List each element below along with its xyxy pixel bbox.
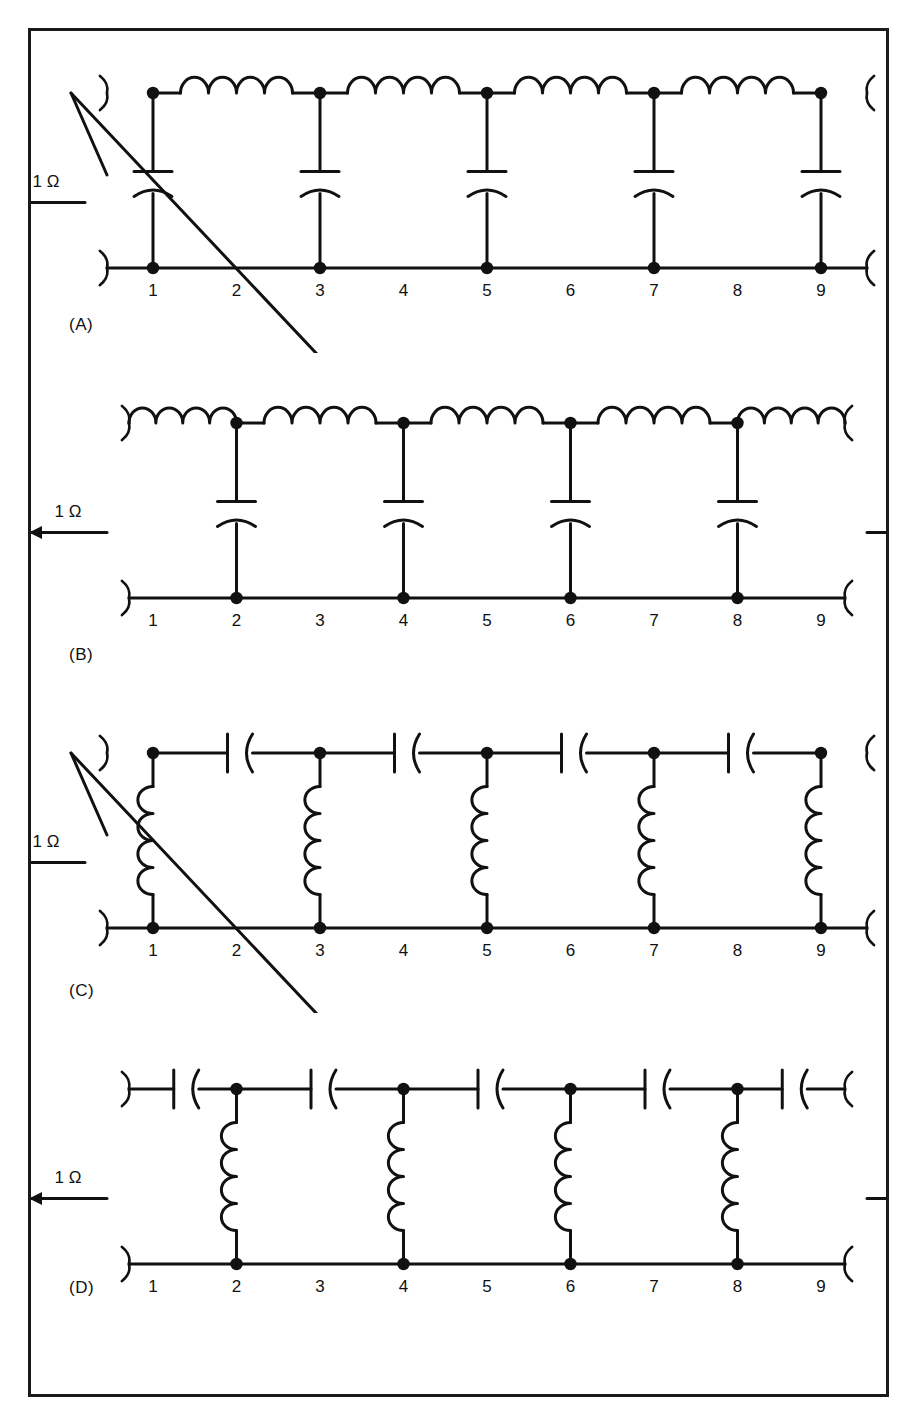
shunt-inductor: [388, 1123, 403, 1231]
node-number-label: 6: [566, 941, 575, 960]
junction-dot: [314, 87, 326, 99]
left-top-terminal: [122, 1072, 129, 1106]
node-number-label: 3: [315, 941, 324, 960]
junction-dot: [481, 922, 493, 934]
node-number-label: 9: [816, 281, 825, 300]
node-number-label: 7: [649, 611, 658, 630]
node-number-label: 1: [148, 1277, 157, 1296]
node-number-label: 2: [232, 941, 241, 960]
top-rail-segment: [71, 753, 821, 1013]
node-number-label: 7: [649, 281, 658, 300]
node-number-label: 2: [232, 281, 241, 300]
junction-dot: [314, 747, 326, 759]
series-inductor: [129, 408, 237, 423]
shunt-inductor: [138, 787, 153, 895]
shunt-inductor: [722, 1123, 737, 1231]
junction-dot: [731, 417, 743, 429]
junction-dot: [648, 747, 660, 759]
series-inductor: [431, 407, 543, 423]
junction-dot: [648, 922, 660, 934]
junction-dot: [564, 592, 576, 604]
circuit-c-svg: 1 Ω1 Ω123456789: [31, 713, 886, 1013]
series-inductor: [515, 77, 627, 93]
shunt-inductor: [555, 1123, 570, 1231]
left-bottom-terminal: [100, 911, 107, 945]
junction-dot: [397, 417, 409, 429]
series-inductor: [682, 77, 794, 93]
junction-dot: [815, 87, 827, 99]
circuit-diagram-c: 1 Ω1 Ω123456789 (C): [31, 713, 886, 1013]
junction-dot: [648, 87, 660, 99]
right-top-terminal: [845, 406, 852, 440]
figure-frame: 1 Ω1 Ω123456789 (A) 1 Ω1 Ω123456789 (B) …: [28, 28, 889, 1397]
junction-dot: [815, 747, 827, 759]
top-rail-segment: [71, 93, 821, 353]
node-number-label: 5: [482, 281, 491, 300]
circuit-diagram-b: 1 Ω1 Ω123456789 (B): [31, 383, 886, 683]
node-number-label: 8: [733, 1277, 742, 1296]
left-termination-label: 1 Ω: [33, 172, 60, 191]
junction-dot: [731, 1258, 743, 1270]
junction-dot: [397, 1083, 409, 1095]
junction-dot: [564, 1083, 576, 1095]
right-bottom-terminal: [867, 911, 874, 945]
node-number-label: 3: [315, 611, 324, 630]
series-inductor: [264, 407, 376, 423]
left-termination-head: [31, 1192, 42, 1205]
circuit-diagram-a: 1 Ω1 Ω123456789 (A): [31, 53, 886, 353]
junction-dot: [147, 747, 159, 759]
left-termination-label: 1 Ω: [33, 832, 60, 851]
right-top-terminal: [867, 76, 874, 110]
circuit-diagram-d: 1 Ω1 Ω123456789 (D): [31, 1049, 886, 1349]
junction-dot: [481, 747, 493, 759]
circuit-d-svg: 1 Ω1 Ω123456789: [31, 1049, 886, 1349]
node-number-label: 4: [399, 281, 408, 300]
node-number-label: 4: [399, 941, 408, 960]
left-bottom-terminal: [100, 251, 107, 285]
junction-dot: [564, 1258, 576, 1270]
node-number-label: 1: [148, 281, 157, 300]
node-number-label: 4: [399, 611, 408, 630]
left-bottom-terminal: [122, 581, 129, 615]
node-number-label: 6: [566, 611, 575, 630]
junction-dot: [147, 262, 159, 274]
node-number-label: 8: [733, 281, 742, 300]
node-number-label: 2: [232, 611, 241, 630]
junction-dot: [397, 1258, 409, 1270]
right-bottom-terminal: [845, 581, 852, 615]
junction-dot: [815, 922, 827, 934]
junction-dot: [314, 262, 326, 274]
node-number-label: 3: [315, 281, 324, 300]
node-number-label: 5: [482, 611, 491, 630]
right-bottom-terminal: [867, 251, 874, 285]
junction-dot: [230, 592, 242, 604]
node-number-label: 1: [148, 941, 157, 960]
circuit-b-caption: (B): [69, 645, 93, 665]
node-number-label: 6: [566, 281, 575, 300]
node-number-label: 8: [733, 611, 742, 630]
shunt-inductor: [472, 787, 487, 895]
node-number-label: 8: [733, 941, 742, 960]
node-number-label: 2: [232, 1277, 241, 1296]
junction-dot: [731, 1083, 743, 1095]
node-number-label: 5: [482, 1277, 491, 1296]
circuit-a-svg: 1 Ω1 Ω123456789: [31, 53, 886, 353]
series-inductor: [738, 408, 846, 423]
node-number-label: 9: [816, 611, 825, 630]
series-inductor: [181, 77, 293, 93]
top-rail-segment: [71, 753, 107, 835]
left-termination-label: 1 Ω: [55, 502, 82, 521]
junction-dot: [230, 417, 242, 429]
left-top-terminal: [100, 736, 107, 770]
junction-dot: [397, 592, 409, 604]
left-top-terminal: [100, 76, 107, 110]
circuit-d-caption: (D): [69, 1278, 94, 1298]
shunt-inductor: [221, 1123, 236, 1231]
node-number-label: 7: [649, 1277, 658, 1296]
left-termination-label: 1 Ω: [55, 1168, 82, 1187]
junction-dot: [230, 1258, 242, 1270]
shunt-inductor: [305, 787, 320, 895]
top-rail-segment: [71, 93, 107, 175]
junction-dot: [147, 87, 159, 99]
junction-dot: [481, 87, 493, 99]
